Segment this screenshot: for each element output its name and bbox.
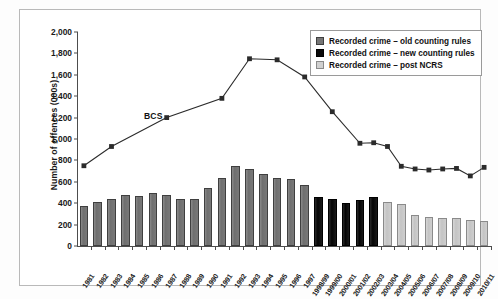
x-tick-mark [160,246,161,250]
x-tick-label: 1995 [273,272,289,290]
x-tick-mark [450,246,451,250]
x-tick-mark [201,246,202,250]
x-tick-mark [325,246,326,250]
x-tick-mark [408,246,409,250]
x-tick-mark [118,246,119,250]
legend-item: Recorded crime – post NCRS [316,59,475,71]
legend-swatch-old [316,37,324,45]
x-tick-label: 1982 [94,272,110,290]
bcs-data-point: 2007/08: 720 [440,167,445,172]
bcs-data-point: 2004/05: 745 [399,164,404,169]
bcs-data-point: 2006/07: 710 [427,168,432,173]
chart-legend: Recorded crime – old counting rulesRecor… [310,30,482,76]
x-tick-label: 1983 [108,272,124,290]
bcs-data-point: 1999/00: 1255 [330,109,335,114]
chart-frame: Number of offences (000s) 02004006008001… [19,9,481,286]
x-tick-mark [394,246,395,250]
x-tick-label: 1985 [135,272,151,290]
legend-item: Recorded crime – new counting rules [316,47,475,59]
legend-label: Recorded crime – post NCRS [329,61,443,70]
x-tick-mark [436,246,437,250]
legend-label: Recorded crime – old counting rules [329,37,471,46]
bcs-data-point: 1997: 1580 [302,75,307,80]
x-tick-label: 1990 [204,272,220,290]
x-tick-mark [339,246,340,250]
bcs-data-point: 1995: 1740 [275,57,280,62]
x-tick-mark [381,246,382,250]
x-tick-mark [298,246,299,250]
bcs-data-point: 1983: 930 [109,144,114,149]
bcs-annotation-label: BCS [144,111,163,121]
x-tick-label: 1989 [191,272,207,290]
x-tick-mark [353,246,354,250]
x-tick-label: 1988 [177,272,193,290]
x-tick-label: 1986 [149,272,165,290]
x-tick-mark [256,246,257,250]
x-tick-label: 1981 [80,272,96,290]
bcs-data-point: 1987: 1200 [164,115,169,120]
x-tick-label: 1992 [232,272,248,290]
chart-figure: Number of offences (000s) 02004006008001… [0,0,498,299]
x-tick-mark [229,246,230,250]
bcs-data-point: 1981: 750 [82,163,87,168]
x-tick-mark [174,246,175,250]
x-tick-mark [132,246,133,250]
x-tick-mark [146,246,147,250]
x-tick-mark [312,246,313,250]
legend-swatch-new [316,49,324,57]
bcs-data-point: 2001/02: 960 [358,141,363,146]
bcs-data-point: 1991: 1380 [220,96,225,101]
x-tick-mark [463,246,464,250]
x-tick-label: 1987 [163,272,179,290]
bcs-data-point: 2003/04: 930 [385,144,390,149]
x-tick-label: 1994 [260,272,276,290]
x-tick-mark [284,246,285,250]
x-tick-label: 1993 [246,272,262,290]
x-tick-mark [105,246,106,250]
bcs-data-point: 2009/10: 655 [468,174,473,179]
bcs-data-point: 2005/06: 720 [413,167,418,172]
bcs-data-point: 2002/03: 965 [371,140,376,145]
legend-label: Recorded crime – new counting rules [329,49,475,58]
bcs-data-point: 2008/09: 725 [454,166,459,171]
bcs-data-point: 2010/11: 735 [482,165,487,170]
x-tick-mark [243,246,244,250]
x-tick-mark [367,246,368,250]
x-tick-mark [187,246,188,250]
legend-item: Recorded crime – old counting rules [316,35,475,47]
x-tick-label: 1984 [122,272,138,290]
x-tick-mark [491,246,492,250]
legend-swatch-ncrs [316,61,324,69]
bcs-data-point: 1993: 1750 [247,56,252,61]
x-tick-mark [270,246,271,250]
x-tick-label: 1991 [218,272,234,290]
x-tick-mark [422,246,423,250]
x-tick-mark [215,246,216,250]
x-tick-label: 1996 [287,272,303,290]
x-tick-mark [91,246,92,250]
x-tick-mark [477,246,478,250]
